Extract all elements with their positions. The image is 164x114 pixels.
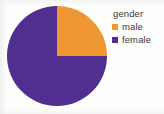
legend-item-male[interactable]: male [112, 22, 164, 32]
legend-label-female: female [122, 35, 151, 45]
legend-item-female[interactable]: female [112, 35, 164, 45]
legend-label-male: male [122, 22, 143, 32]
pie-chart-figure: gender male female [0, 0, 164, 114]
legend-title: gender [113, 8, 164, 19]
legend-swatch-male [112, 24, 118, 30]
pie-chart-plot-area [7, 6, 107, 106]
chart-legend: gender male female [112, 8, 164, 45]
pie-slice-male[interactable] [57, 6, 107, 56]
pie-chart-svg [7, 6, 107, 106]
legend-swatch-female [112, 37, 118, 43]
